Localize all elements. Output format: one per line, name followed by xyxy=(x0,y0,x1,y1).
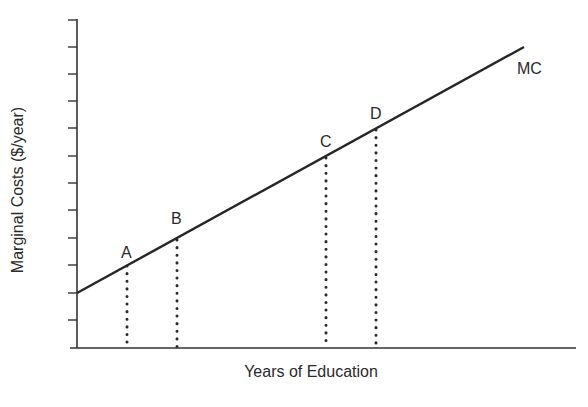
y-axis-title: Marginal Costs ($/year) xyxy=(9,107,27,273)
curve-label-mc: MC xyxy=(517,61,542,77)
point-label-a: A xyxy=(121,245,132,261)
mc-curve xyxy=(77,47,524,293)
y-axis-ticks xyxy=(68,20,77,320)
chart-canvas xyxy=(0,0,588,407)
droplines xyxy=(127,130,376,348)
y-axis xyxy=(68,19,77,348)
point-label-c: C xyxy=(320,134,332,150)
point-label-b: B xyxy=(171,211,182,227)
x-axis-title: Years of Education xyxy=(244,363,378,381)
point-label-d: D xyxy=(370,106,382,122)
